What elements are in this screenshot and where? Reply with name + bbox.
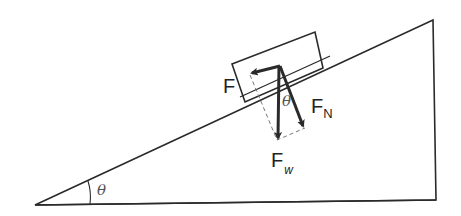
inclined-plane xyxy=(35,20,436,205)
label-angle-forces: θ xyxy=(282,92,291,110)
label-weight-main: F xyxy=(271,149,283,171)
label-normal-sub: N xyxy=(323,106,332,121)
label-normal-main: F xyxy=(311,95,323,117)
label-angle-incline: θ xyxy=(97,181,106,199)
label-weight-sub: w xyxy=(284,163,294,177)
incline-diagram: F FN Fw θ θ xyxy=(0,0,461,216)
incline-angle-arc xyxy=(88,181,90,204)
ground-line xyxy=(35,200,436,205)
label-weight: Fw xyxy=(271,149,294,177)
label-normal: FN xyxy=(311,95,333,121)
weight-force-arrow xyxy=(278,66,279,138)
label-friction: F xyxy=(223,75,235,97)
